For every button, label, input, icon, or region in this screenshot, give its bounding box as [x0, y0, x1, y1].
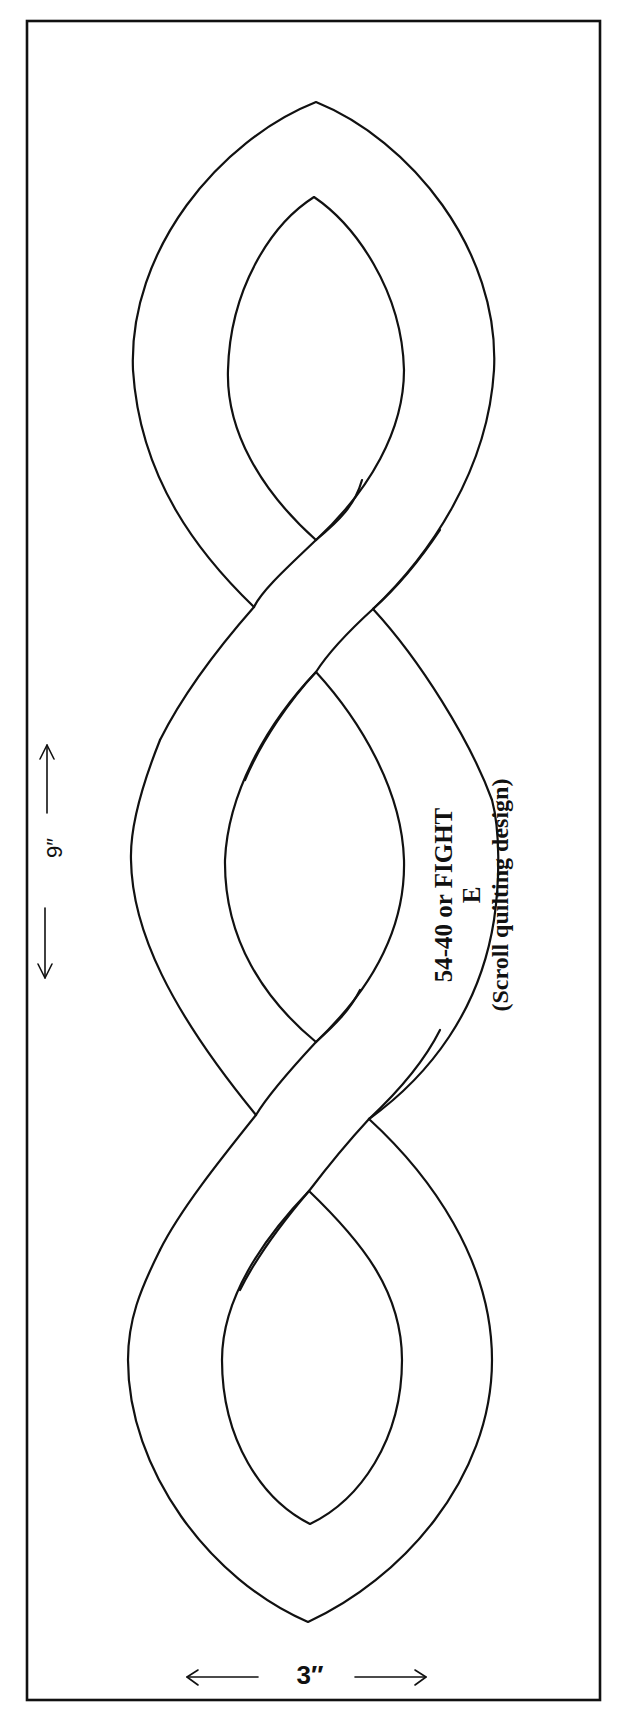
outer-bottom-lobe-edge: [128, 1119, 492, 1622]
width-dimension-label: 3″: [283, 1660, 337, 1690]
crossing-2-over-edge-b-lower: [240, 1119, 369, 1290]
pattern-caption: 54-40 or FIGHT E (Scroll quilting design…: [430, 715, 514, 1075]
pattern-letter: E: [458, 715, 486, 1075]
pattern-subtitle: (Scroll quilting design): [486, 715, 514, 1075]
pattern-border: [27, 21, 600, 1700]
crossing-1-over-edge-a: [160, 540, 316, 740]
height-dimension-label: 9″: [42, 823, 68, 873]
crossing-2-over-edge-a: [160, 1042, 316, 1250]
outer-top-lobe-edge: [133, 102, 494, 609]
inner-bottom-lens-edge: [222, 1191, 402, 1524]
inner-top-lens-edge: [228, 197, 404, 540]
crossing-1-over-edge-a-upper: [316, 480, 362, 540]
crossing-1-over-edge-b-lower: [245, 609, 373, 780]
scroll-quilting-diagram: [0, 0, 620, 1723]
pattern-title: 54-40 or FIGHT: [430, 715, 458, 1075]
inner-middle-lens-edge: [225, 672, 404, 1042]
